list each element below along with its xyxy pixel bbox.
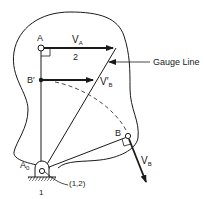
pivot-a0-joint <box>39 168 44 173</box>
label-velocity-b-prime-main: V′ <box>100 76 109 87</box>
diagram-canvas: A VA 2 Gauge Line B′ V′B B VB A0 1 (1,2) <box>0 0 205 199</box>
gauge-line <box>46 48 116 166</box>
point-a-joint <box>38 45 44 51</box>
label-pivot-sub: 0 <box>26 165 29 171</box>
label-velocity-b: VB <box>141 156 152 167</box>
label-velocity-a: VA <box>72 35 83 46</box>
point-b-joint <box>125 133 130 138</box>
label-velocity-b-sub: B <box>148 161 152 167</box>
label-ground-1: 1 <box>39 189 43 197</box>
label-instant-center: (1,2) <box>69 180 85 188</box>
label-velocity-a-sub: A <box>79 40 83 46</box>
label-velocity-b-prime: V′B <box>100 77 113 88</box>
label-velocity-b-main: V <box>141 155 148 166</box>
label-pivot-a0: A0 <box>20 161 29 171</box>
label-link-2: 2 <box>73 53 78 62</box>
label-point-b: B <box>115 129 121 138</box>
label-velocity-b-prime-sub: B <box>109 82 113 88</box>
label-point-a: A <box>37 34 43 43</box>
label-gauge-line: Gauge Line <box>153 58 200 67</box>
point-b-prime-dot <box>39 78 43 82</box>
label-velocity-a-main: V <box>72 34 79 45</box>
mechanism-drawing <box>0 0 205 199</box>
line-a0-b <box>44 137 127 169</box>
label-point-b-prime: B′ <box>27 76 35 85</box>
